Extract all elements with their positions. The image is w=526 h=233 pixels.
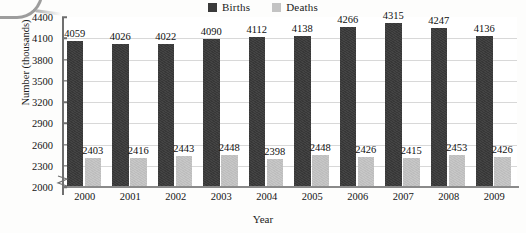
y-tick-label: 2600 [7,139,53,150]
y-tick-label: 3200 [7,97,53,108]
x-axis-title: Year [0,213,526,225]
x-tick-label-2002: 2002 [165,191,186,202]
y-tick-label: 2900 [7,118,53,129]
x-tick-label-2008: 2008 [438,191,459,202]
x-tick-label-2009: 2009 [484,191,505,202]
x-tick-label-2006: 2006 [347,191,368,202]
x-tick-label-2000: 2000 [74,191,95,202]
x-tick-label-2007: 2007 [393,191,414,202]
y-axis-tick-labels: 200023002600290032003500380041004400 [0,0,62,233]
y-tick-label: 2300 [7,160,53,171]
x-tick-label-2005: 2005 [302,191,323,202]
y-tick-label: 4100 [7,33,53,44]
y-tick-label: 2000 [7,182,53,193]
bar-chart-figure: BirthsDeaths Number (thousands) 40592403… [0,0,526,233]
x-tick-label-2003: 2003 [211,191,232,202]
x-tick-label-2004: 2004 [256,191,277,202]
x-axis-tick-labels: 2000200120022003200420052006200720082009 [62,0,517,233]
y-tick-label: 3800 [7,54,53,65]
x-tick-label-2001: 2001 [120,191,141,202]
y-tick-label: 3500 [7,75,53,86]
y-tick-label: 4400 [7,12,53,23]
